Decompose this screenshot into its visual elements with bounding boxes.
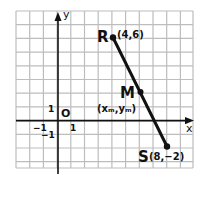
coordinate-plane: y x O 1 1 −1 −1 R (4,6) M (xₘ,yₘ) S (8,−… <box>0 0 206 201</box>
point-m-coords: (xₘ,yₘ) <box>97 103 136 114</box>
tick-x-pos: 1 <box>70 123 76 133</box>
point-s-name: S <box>138 148 149 166</box>
point-r <box>110 34 116 40</box>
point-m <box>138 89 144 95</box>
point-s-coords: (8,−2) <box>149 151 184 162</box>
x-axis-label: x <box>186 122 193 135</box>
y-axis-arrow-icon <box>55 12 62 21</box>
point-m-name: M <box>120 84 135 102</box>
tick-y-neg: −1 <box>41 130 55 140</box>
point-s <box>164 143 170 149</box>
origin-label: O <box>61 107 70 120</box>
tick-y-pos: 1 <box>48 104 54 114</box>
y-axis-label: y <box>63 8 70 21</box>
point-r-coords: (4,6) <box>117 29 144 40</box>
point-r-name: R <box>97 28 109 46</box>
